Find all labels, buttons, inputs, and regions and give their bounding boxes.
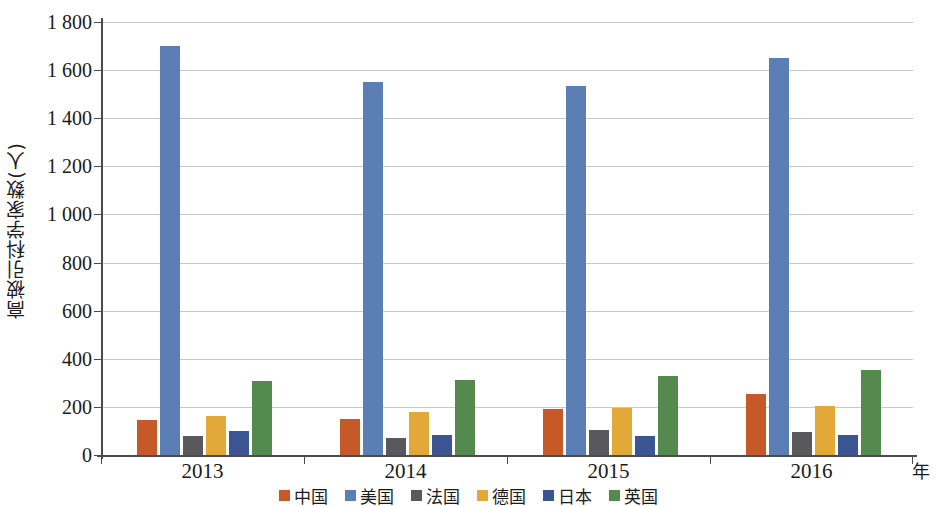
bar bbox=[363, 82, 383, 455]
legend-label: 英国 bbox=[624, 483, 658, 506]
y-tick-mark bbox=[94, 22, 101, 23]
bar bbox=[252, 381, 272, 455]
legend-label: 日本 bbox=[558, 483, 592, 506]
y-tick-mark bbox=[94, 311, 101, 312]
bar bbox=[566, 86, 586, 455]
y-tick-label: 0 bbox=[82, 444, 92, 467]
bar bbox=[432, 435, 452, 455]
x-tick-label-2015: 2015 bbox=[588, 459, 630, 484]
legend-label: 美国 bbox=[360, 483, 394, 506]
bar bbox=[386, 438, 406, 455]
legend-swatch-icon bbox=[543, 490, 554, 501]
legend-item[interactable]: 日本 bbox=[543, 483, 592, 506]
y-tick-label: 1 200 bbox=[47, 155, 92, 178]
bar bbox=[838, 435, 858, 455]
bar bbox=[589, 430, 609, 455]
x-axis-tick-labels: 2013201420152016 bbox=[101, 459, 913, 485]
y-tick-mark bbox=[94, 118, 101, 119]
bar bbox=[612, 408, 632, 455]
legend-item[interactable]: 美国 bbox=[345, 483, 394, 506]
legend-swatch-icon bbox=[609, 490, 620, 501]
chart-legend: 中国美国法国德国日本英国 bbox=[0, 483, 936, 506]
bar bbox=[861, 370, 881, 455]
y-tick-label: 1 000 bbox=[47, 203, 92, 226]
bars-layer bbox=[101, 22, 913, 455]
legend-label: 德国 bbox=[492, 483, 526, 506]
x-tick-label-2016: 2016 bbox=[791, 459, 833, 484]
legend-item[interactable]: 英国 bbox=[609, 483, 658, 506]
y-tick-mark bbox=[94, 166, 101, 167]
chart-page: 高被引科学家数(人) 02004006008001 0001 2001 4001… bbox=[0, 0, 936, 506]
y-tick-mark bbox=[94, 70, 101, 71]
x-axis-title: 年 bbox=[912, 457, 930, 483]
y-tick-mark bbox=[94, 263, 101, 264]
legend-item[interactable]: 中国 bbox=[279, 483, 328, 506]
legend-item[interactable]: 德国 bbox=[477, 483, 526, 506]
legend-swatch-icon bbox=[279, 490, 290, 501]
bar bbox=[658, 376, 678, 455]
y-tick-mark bbox=[94, 214, 101, 215]
bar bbox=[815, 406, 835, 455]
bar bbox=[340, 419, 360, 455]
y-tick-label: 200 bbox=[62, 395, 92, 418]
legend-label: 法国 bbox=[426, 483, 460, 506]
bar bbox=[746, 394, 766, 455]
y-tick-label: 600 bbox=[62, 299, 92, 322]
bar bbox=[455, 380, 475, 455]
legend-swatch-icon bbox=[411, 490, 422, 501]
x-tick-label-2014: 2014 bbox=[385, 459, 427, 484]
legend-label: 中国 bbox=[294, 483, 328, 506]
y-tick-label: 1 600 bbox=[47, 59, 92, 82]
bar bbox=[137, 420, 157, 455]
legend-swatch-icon bbox=[477, 490, 488, 501]
bar bbox=[229, 431, 249, 455]
y-tick-label: 400 bbox=[62, 347, 92, 370]
bar bbox=[792, 432, 812, 455]
bar bbox=[409, 412, 429, 455]
bar bbox=[543, 409, 563, 455]
legend-item[interactable]: 法国 bbox=[411, 483, 460, 506]
y-tick-mark bbox=[94, 359, 101, 360]
bar bbox=[769, 58, 789, 455]
y-tick-label: 1 400 bbox=[47, 107, 92, 130]
x-tick-label-2013: 2013 bbox=[182, 459, 224, 484]
y-tick-label: 800 bbox=[62, 251, 92, 274]
y-tick-mark bbox=[94, 407, 101, 408]
y-tick-label: 1 800 bbox=[47, 11, 92, 34]
legend-swatch-icon bbox=[345, 490, 356, 501]
bar bbox=[206, 416, 226, 455]
y-axis-tick-labels: 02004006008001 0001 2001 4001 6001 800 bbox=[24, 22, 92, 455]
bar bbox=[160, 46, 180, 455]
bar bbox=[635, 436, 655, 455]
bar bbox=[183, 436, 203, 455]
